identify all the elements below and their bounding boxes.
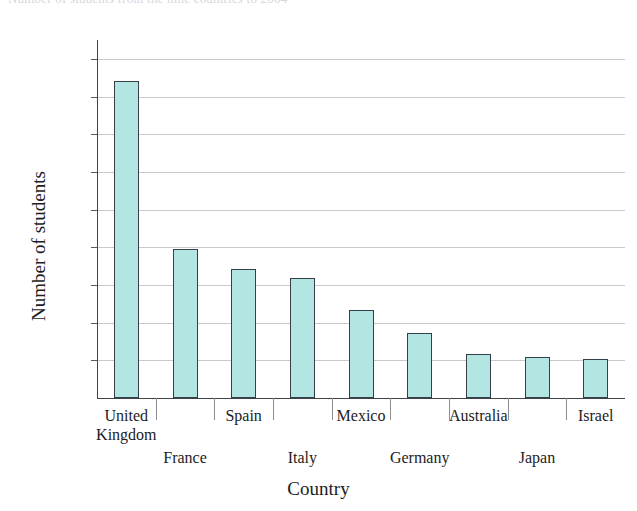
bar-texture <box>174 250 197 397</box>
gridline <box>98 59 625 60</box>
y-axis-tick <box>91 247 97 248</box>
bar <box>290 278 315 398</box>
y-axis-tick <box>91 285 97 286</box>
bar <box>114 81 139 398</box>
bar <box>466 354 491 398</box>
x-axis-tick-label: France <box>130 448 240 467</box>
bar <box>525 357 550 398</box>
x-axis-tick-label: Japan <box>482 448 592 467</box>
y-axis-tick <box>91 360 97 361</box>
cut-off-title-strip: Number of students from the nine countri… <box>0 0 637 9</box>
bar <box>349 310 374 398</box>
chart-title-ghost: Number of students from the nine countri… <box>8 0 287 7</box>
x-axis-tick-label: Israel <box>541 406 637 425</box>
y-axis-line <box>97 40 98 398</box>
gridline <box>98 97 625 98</box>
gridline <box>98 210 625 211</box>
bar-texture <box>115 82 138 397</box>
bar-texture <box>526 358 549 397</box>
y-axis-tick <box>91 97 97 98</box>
y-axis-tick <box>91 172 97 173</box>
gridline <box>98 172 625 173</box>
bar-texture <box>584 360 607 397</box>
bar-texture <box>291 279 314 397</box>
gridline <box>98 134 625 135</box>
bar-texture <box>350 311 373 397</box>
bar-texture <box>232 270 255 397</box>
y-axis-tick <box>91 59 97 60</box>
x-axis-title: Country <box>0 478 637 500</box>
x-axis-tick-label: Australia <box>423 406 533 425</box>
y-axis-title: Number of students <box>28 121 50 371</box>
y-axis-tick <box>91 210 97 211</box>
bar <box>407 333 432 398</box>
bar <box>173 249 198 398</box>
bar-texture <box>467 355 490 397</box>
x-axis-tick-label: Italy <box>247 448 357 467</box>
plot-area <box>97 40 625 398</box>
bar-texture <box>408 334 431 397</box>
x-axis-tick-label: Mexico <box>306 406 416 425</box>
x-axis-tick-labels: UnitedKingdomFranceSpainItalyMexicoGerma… <box>97 398 625 468</box>
x-axis-tick-label: UnitedKingdom <box>71 406 181 444</box>
y-axis-tick <box>91 134 97 135</box>
bar <box>231 269 256 398</box>
x-axis-tick-label: Germany <box>365 448 475 467</box>
y-axis-tick <box>91 323 97 324</box>
bar-chart-figure: Number of students from the nine countri… <box>0 0 637 511</box>
gridline <box>98 247 625 248</box>
bar <box>583 359 608 398</box>
x-axis-tick-label: Spain <box>189 406 299 425</box>
